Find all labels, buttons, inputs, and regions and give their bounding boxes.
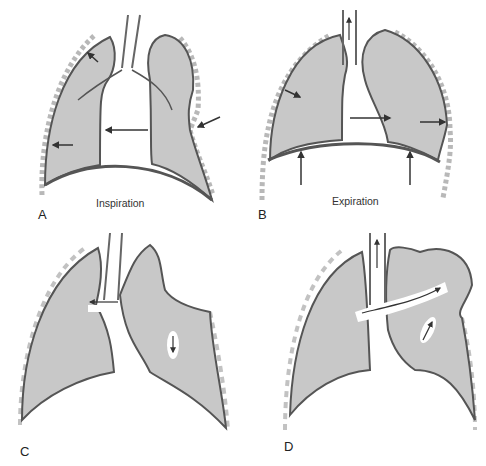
panel-label-d: D (284, 439, 293, 454)
lung-diagram (0, 0, 486, 466)
panel-label-c: C (20, 444, 29, 459)
panel-a-inspiration (42, 15, 220, 200)
caption-expiration: Expiration (332, 195, 379, 207)
panel-label-b: B (258, 207, 267, 222)
panel-c (20, 233, 228, 430)
caption-inspiration: Inspiration (96, 197, 144, 209)
panel-d (285, 233, 475, 430)
panel-b-expiration (262, 10, 451, 200)
panel-label-a: A (38, 207, 47, 222)
